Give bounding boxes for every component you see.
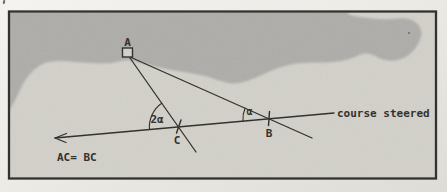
scanned-book-page: A C B 2α α course steered AC= BC <box>0 0 447 192</box>
navigation-diagram: A C B 2α α course steered AC= BC <box>0 0 447 192</box>
scan-grain-overlay <box>9 12 436 179</box>
